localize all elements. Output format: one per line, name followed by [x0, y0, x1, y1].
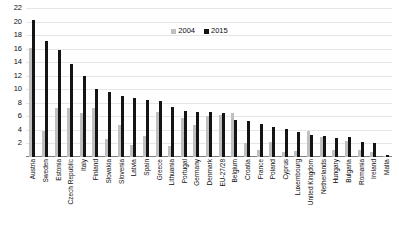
x-tick-label: Romania: [357, 159, 364, 185]
bar-2015: [133, 98, 136, 157]
bar-2015: [95, 89, 98, 157]
y-tick-label: 10: [0, 85, 22, 93]
x-axis-category: Latvia: [127, 159, 140, 237]
x-axis-category: Portugal: [178, 159, 191, 237]
x-axis-category: Netherlands: [316, 159, 329, 237]
x-tick-label: Bulgaria: [344, 159, 351, 183]
bar-2015: [260, 124, 263, 157]
bar-group: [140, 8, 153, 157]
x-tick-label: Denmark: [206, 159, 213, 185]
x-axis-category: United Kingdom: [304, 159, 317, 237]
bar-2015: [323, 136, 326, 157]
bar-2015: [70, 64, 73, 157]
bar-group: [316, 8, 329, 157]
x-tick-label: Latvia: [130, 159, 137, 176]
x-axis-category: Poland: [266, 159, 279, 237]
bar-2015: [45, 41, 48, 157]
bar-2015: [146, 100, 149, 157]
x-axis-category: Romania: [354, 159, 367, 237]
bar-2015: [335, 138, 338, 157]
bar-2015: [310, 135, 313, 157]
bar-2015: [373, 143, 376, 157]
x-axis-category: EU-27/28: [215, 159, 228, 237]
x-tick-label: Lithuania: [168, 159, 175, 185]
bar-chart: 246810121416182022 20042015 AustriaSwede…: [0, 0, 399, 239]
x-tick-label: Ireland: [370, 159, 377, 179]
x-tick-label: Sweden: [41, 159, 48, 183]
bar-group: [342, 8, 355, 157]
bar-group: [291, 8, 304, 157]
x-tick-label: Austria: [29, 159, 36, 179]
x-tick-label: Czech Republic: [67, 159, 74, 205]
x-tick-label: Belgium: [231, 159, 238, 182]
x-axis-category: Croatia: [241, 159, 254, 237]
x-axis-category: Malta: [380, 159, 393, 237]
bar-group: [89, 8, 102, 157]
bar-group: [77, 8, 90, 157]
x-tick-label: Slovenia: [117, 159, 124, 184]
bar-group: [39, 8, 52, 157]
x-axis-category: Austria: [26, 159, 39, 237]
x-axis-category: Sweden: [39, 159, 52, 237]
x-tick-label: Estonia: [54, 159, 61, 181]
bar-group: [152, 8, 165, 157]
bar-group: [178, 8, 191, 157]
y-tick-label: 4: [0, 126, 22, 134]
y-tick-label: 18: [0, 31, 22, 39]
bar-series-container: [26, 8, 392, 157]
bar-group: [165, 8, 178, 157]
x-axis-category: Ireland: [367, 159, 380, 237]
bar-2015: [83, 76, 86, 157]
x-axis-category: Denmark: [203, 159, 216, 237]
bar-2015: [234, 120, 237, 157]
bar-2015: [348, 137, 351, 157]
x-axis-category: Slovakia: [102, 159, 115, 237]
x-axis-category: Italy: [77, 159, 90, 237]
x-axis-category: Luxembourg: [291, 159, 304, 237]
bar-group: [241, 8, 254, 157]
bar-group: [190, 8, 203, 157]
x-axis-category: Bulgaria: [342, 159, 355, 237]
bar-group: [354, 8, 367, 157]
bar-2015: [159, 101, 162, 157]
x-tick-label: France: [256, 159, 263, 179]
bar-2015: [361, 142, 364, 157]
x-axis-category: Spain: [140, 159, 153, 237]
x-tick-label: Luxembourg: [294, 159, 301, 195]
bar-2015: [171, 107, 174, 157]
bar-2015: [272, 127, 275, 157]
x-axis-category: Estonia: [51, 159, 64, 237]
x-axis-category: Greece: [152, 159, 165, 237]
bar-group: [26, 8, 39, 157]
x-tick-label: Italy: [79, 159, 86, 171]
bar-2015: [121, 96, 124, 157]
bar-group: [102, 8, 115, 157]
bar-group: [380, 8, 393, 157]
bar-group: [279, 8, 292, 157]
x-axis-category: Germany: [190, 159, 203, 237]
bar-group: [266, 8, 279, 157]
x-tick-label: EU-27/28: [218, 159, 225, 186]
x-tick-label: Finland: [92, 159, 99, 180]
x-tick-label: Hungary: [332, 159, 339, 184]
y-tick-label: 16: [0, 45, 22, 53]
bar-2015: [247, 121, 250, 157]
x-axis-category: France: [253, 159, 266, 237]
x-tick-label: Netherlands: [319, 159, 326, 194]
bar-group: [215, 8, 228, 157]
bar-2015: [386, 155, 389, 157]
x-axis-labels: AustriaSwedenEstoniaCzech RepublicItalyF…: [26, 159, 392, 237]
bar-group: [51, 8, 64, 157]
x-tick-label: Cyprus: [281, 159, 288, 180]
x-tick-label: Slovakia: [105, 159, 112, 184]
x-axis-category: Finland: [89, 159, 102, 237]
bar-group: [253, 8, 266, 157]
x-axis-category: Czech Republic: [64, 159, 77, 237]
x-tick-label: Greece: [155, 159, 162, 180]
bar-group: [203, 8, 216, 157]
x-axis-category: Cyprus: [279, 159, 292, 237]
bar-2015: [58, 50, 61, 157]
bar-group: [304, 8, 317, 157]
bar-2015: [209, 112, 212, 157]
bar-group: [127, 8, 140, 157]
